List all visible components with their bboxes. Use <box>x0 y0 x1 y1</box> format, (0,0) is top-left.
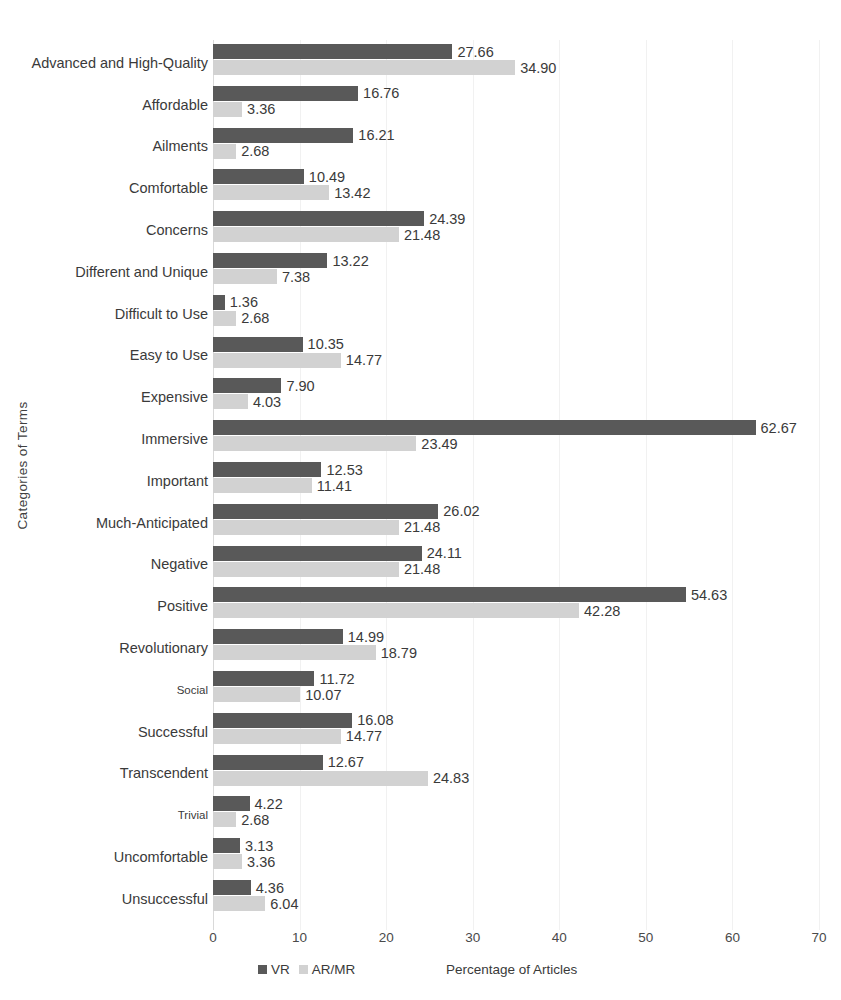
bar-value-label: 21.48 <box>404 519 440 535</box>
bar-vr <box>213 211 424 226</box>
category-label: Positive <box>157 585 208 627</box>
bar-group-ar-mr: 7.38 <box>213 269 819 284</box>
bar-group-vr: 16.08 <box>213 713 819 728</box>
category-label: Important <box>147 460 208 502</box>
bar-group-vr: 26.02 <box>213 504 819 519</box>
bar-ar-mr <box>213 645 376 660</box>
bar-row: Comfortable10.4913.42 <box>213 167 819 209</box>
bar-ar-mr <box>213 854 242 869</box>
bar-value-label: 62.67 <box>761 420 797 436</box>
bar-vr <box>213 629 343 644</box>
category-label: Comfortable <box>129 167 208 209</box>
bar-group-ar-mr: 21.48 <box>213 520 819 535</box>
x-axis-title: Percentage of Articles <box>446 962 577 977</box>
bar-group-ar-mr: 18.79 <box>213 645 819 660</box>
legend-item-vr[interactable]: VR <box>258 962 290 977</box>
bar-vr <box>213 253 327 268</box>
bar-value-label: 7.38 <box>282 269 310 285</box>
category-label: Easy to Use <box>130 335 208 377</box>
bar-vr <box>213 44 452 59</box>
bar-value-label: 7.90 <box>286 378 314 394</box>
bar-row: Transcendent12.6724.83 <box>213 753 819 795</box>
bar-ar-mr <box>213 144 236 159</box>
bar-value-label: 18.79 <box>381 645 417 661</box>
bar-group-ar-mr: 2.68 <box>213 812 819 827</box>
category-label: Expensive <box>141 376 208 418</box>
bar-group-ar-mr: 24.83 <box>213 771 819 786</box>
category-label: Revolutionary <box>119 627 208 669</box>
bar-value-label: 21.48 <box>404 227 440 243</box>
bar-group-ar-mr: 2.68 <box>213 144 819 159</box>
category-label: Difficult to Use <box>115 293 208 335</box>
bar-value-label: 11.72 <box>319 671 354 687</box>
bar-value-label: 4.36 <box>256 880 284 896</box>
bar-ar-mr <box>213 771 428 786</box>
bar-value-label: 2.68 <box>241 812 269 828</box>
bar-value-label: 13.22 <box>332 253 368 269</box>
bar-value-label: 4.03 <box>253 394 281 410</box>
bar-row: Difficult to Use1.362.68 <box>213 293 819 335</box>
bar-value-label: 16.76 <box>363 85 399 101</box>
bar-group-vr: 16.21 <box>213 128 819 143</box>
legend-item-ar-mr[interactable]: AR/MR <box>299 962 356 977</box>
legend-label: VR <box>271 962 290 977</box>
x-tick-label: 70 <box>811 930 826 945</box>
x-tick-label: 10 <box>292 930 307 945</box>
bar-value-label: 14.99 <box>348 629 384 645</box>
bar-value-label: 1.36 <box>230 294 258 310</box>
bar-ar-mr <box>213 185 329 200</box>
bar-value-label: 10.49 <box>309 169 345 185</box>
bar-vr <box>213 880 251 895</box>
x-tick-label: 20 <box>379 930 394 945</box>
category-label: Advanced and High-Quality <box>31 42 208 84</box>
x-tick-label: 0 <box>209 930 217 945</box>
bar-group-ar-mr: 14.77 <box>213 729 819 744</box>
bar-ar-mr <box>213 394 248 409</box>
bar-group-ar-mr: 3.36 <box>213 102 819 117</box>
bar-row: Social11.7210.07 <box>213 669 819 711</box>
bar-group-vr: 27.66 <box>213 44 819 59</box>
bar-ar-mr <box>213 102 242 117</box>
bar-vr <box>213 420 756 435</box>
bar-value-label: 14.77 <box>346 728 382 744</box>
bar-row: Expensive7.904.03 <box>213 376 819 418</box>
bar-group-vr: 16.76 <box>213 86 819 101</box>
horizontal-bar-chart: Categories of Terms Advanced and High-Qu… <box>0 0 841 1000</box>
bar-value-label: 21.48 <box>404 561 440 577</box>
category-label: Uncomfortable <box>114 836 208 878</box>
bar-row: Immersive62.6723.49 <box>213 418 819 460</box>
bar-ar-mr <box>213 687 300 702</box>
bar-row: Trivial4.222.68 <box>213 794 819 836</box>
bar-ar-mr <box>213 311 236 326</box>
bar-ar-mr <box>213 478 312 493</box>
category-label: Successful <box>138 711 208 753</box>
bar-vr <box>213 128 353 143</box>
bar-ar-mr <box>213 603 579 618</box>
bar-row: Easy to Use10.3514.77 <box>213 335 819 377</box>
bar-group-ar-mr: 13.42 <box>213 185 819 200</box>
bar-group-vr: 10.35 <box>213 337 819 352</box>
bar-vr <box>213 169 304 184</box>
bar-row: Uncomfortable3.133.36 <box>213 836 819 878</box>
bar-value-label: 24.39 <box>429 211 465 227</box>
bar-row: Positive54.6342.28 <box>213 585 819 627</box>
bar-row: Affordable16.763.36 <box>213 84 819 126</box>
bar-group-ar-mr: 21.48 <box>213 562 819 577</box>
category-label: Unsuccessful <box>122 878 208 920</box>
category-label: Different and Unique <box>75 251 208 293</box>
bar-group-vr: 13.22 <box>213 253 819 268</box>
bar-value-label: 11.41 <box>317 478 352 494</box>
bar-group-vr: 4.22 <box>213 796 819 811</box>
legend-label: AR/MR <box>312 962 356 977</box>
bar-vr <box>213 796 250 811</box>
x-tick-label: 30 <box>465 930 480 945</box>
bar-ar-mr <box>213 436 416 451</box>
bar-group-vr: 10.49 <box>213 169 819 184</box>
bar-value-label: 2.68 <box>241 143 269 159</box>
x-tick-label: 50 <box>638 930 653 945</box>
bar-row: Different and Unique13.227.38 <box>213 251 819 293</box>
bar-row: Successful16.0814.77 <box>213 711 819 753</box>
bar-group-ar-mr: 23.49 <box>213 436 819 451</box>
bar-ar-mr <box>213 562 399 577</box>
bar-ar-mr <box>213 269 277 284</box>
